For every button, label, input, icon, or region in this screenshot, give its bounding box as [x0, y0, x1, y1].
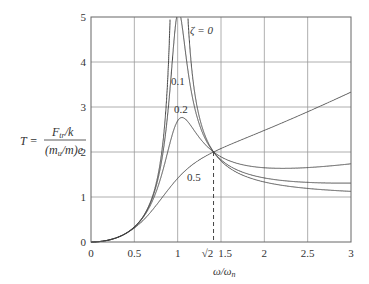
y-tick-label: 5: [81, 11, 87, 23]
label-zeta-0.5: 0.5: [187, 171, 201, 183]
axis-ticks: 00.51√21.522.53012345: [81, 11, 355, 259]
x-axis-label: ω/ωn: [213, 265, 236, 279]
label-zeta-0.2: 0.2: [174, 103, 188, 115]
x-tick-label: 2.5: [301, 247, 315, 259]
grid-lines: [91, 17, 351, 242]
x-tick-label: 3: [348, 247, 354, 259]
y-label-T: T =: [20, 134, 38, 148]
y-tick-label: 1: [81, 191, 87, 203]
x-tick-label: √2: [202, 247, 214, 259]
curve-zeta-0.1: [181, 17, 351, 183]
transmissibility-chart: 00.51√21.522.53012345 ζ = 0 0.1 0.2 0.5 …: [0, 0, 369, 284]
label-zeta-0: ζ = 0: [190, 24, 213, 37]
y-label-numerator: Ftr/k: [51, 125, 74, 140]
x-tick-label: 1.5: [218, 247, 232, 259]
y-label-denominator: (mu/m)e: [45, 143, 84, 158]
y-tick-label: 4: [81, 56, 87, 68]
y-axis-label: T = Ftr/k (mu/m)e: [20, 125, 86, 158]
x-tick-label: 2: [262, 247, 268, 259]
x-tick-label: 0: [88, 247, 94, 259]
curve-zeta-0: [188, 19, 351, 192]
x-tick-label: 0.5: [127, 247, 141, 259]
label-zeta-0.1: 0.1: [171, 75, 185, 87]
curve-zeta-0: [91, 20, 170, 242]
x-tick-label: 1: [175, 247, 181, 259]
y-tick-label: 0: [81, 236, 87, 248]
y-tick-label: 3: [81, 101, 87, 113]
